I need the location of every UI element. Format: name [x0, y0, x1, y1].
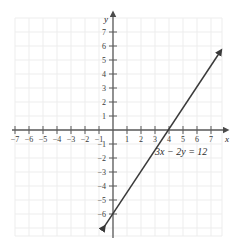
y-tick-label: 1: [102, 112, 106, 121]
y-tick-label: 6: [102, 42, 106, 51]
y-tick-label: −4: [97, 182, 106, 191]
coordinate-plane-figure: −7 −6 −5 −4 −3 −2 −1 1 2 3 4 5 6 7 7 6 5…: [0, 0, 234, 246]
equation-annotation: 3x − 2y = 12: [154, 146, 207, 157]
y-tick-label: 2: [102, 98, 106, 107]
x-tick-label: 2: [139, 135, 143, 144]
y-axis-label: y: [103, 14, 108, 24]
x-tick-label: −3: [67, 135, 76, 144]
grid-lines: [15, 18, 222, 236]
x-tick-label: 3: [153, 135, 157, 144]
y-tick-label: 3: [102, 84, 106, 93]
y-tick-label: −2: [97, 154, 106, 163]
x-tick-labels: −7 −6 −5 −4 −3 −2 −1 1 2 3 4 5 6 7: [11, 135, 213, 144]
x-axis-label: x: [224, 134, 229, 144]
y-tick-label: 7: [102, 28, 106, 37]
x-tick-label: −5: [39, 135, 48, 144]
y-tick-label: −5: [97, 196, 106, 205]
y-tick-label: −1: [97, 140, 106, 149]
y-tick-label: −3: [97, 168, 106, 177]
y-tick-label: 4: [102, 70, 106, 79]
y-tick-label: 5: [102, 56, 106, 65]
y-tick-label: −6: [97, 210, 106, 219]
x-tick-label: 5: [181, 135, 185, 144]
graph-canvas: −7 −6 −5 −4 −3 −2 −1 1 2 3 4 5 6 7 7 6 5…: [0, 0, 234, 246]
x-tick-label: 4: [167, 135, 171, 144]
x-tick-label: −7: [11, 135, 20, 144]
x-tick-label: 7: [209, 135, 213, 144]
x-tick-label: 1: [125, 135, 129, 144]
x-tick-label: 6: [195, 135, 199, 144]
x-tick-label: −6: [25, 135, 34, 144]
plotted-line: [103, 54, 220, 230]
x-tick-label: −4: [53, 135, 62, 144]
x-tick-label: −2: [81, 135, 90, 144]
